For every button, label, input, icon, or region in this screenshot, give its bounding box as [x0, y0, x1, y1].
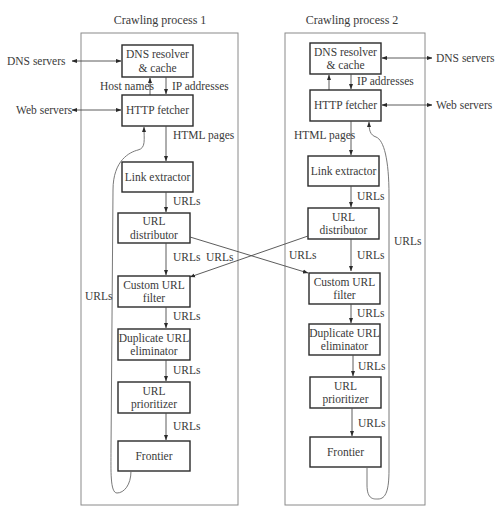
custom-url-filter-label-1a: Custom URL	[123, 279, 185, 291]
custom-url-filter-label-2b: filter	[333, 289, 356, 301]
urls-label-dedup-prior-2: URLs	[358, 360, 386, 372]
url-distributor-label-1a: URL	[143, 215, 166, 227]
ip-addresses-label-2: IP addresses	[357, 75, 414, 87]
custom-url-filter-label-2a: Custom URL	[314, 276, 376, 288]
link-extractor-label-1: Link extractor	[125, 171, 191, 183]
custom-url-filter-label-1b: filter	[143, 292, 166, 304]
duplicate-url-eliminator-label-2b: eliminator	[321, 340, 368, 352]
crawling-process-1: Crawling process 1 DNS servers Web serve…	[7, 13, 238, 505]
distributed-crawler-diagram: Crawling process 1 DNS servers Web serve…	[0, 0, 502, 524]
dns-resolver-label-1b: & cache	[139, 62, 177, 74]
urls-label-link-dist-1: URLs	[173, 195, 201, 207]
urls-label-prior-frontier-1: URLs	[173, 420, 201, 432]
url-prioritizer-label-1b: prioritizer	[131, 398, 177, 411]
urls-label-cross-in-1: URLs	[206, 251, 234, 263]
urls-label-link-dist-2: URLs	[357, 190, 385, 202]
web-servers-label-1: Web servers	[16, 104, 73, 116]
ip-addresses-label-1: IP addresses	[172, 80, 229, 92]
urls-label-cross-in-2: URLs	[289, 249, 317, 261]
http-fetcher-label-1: HTTP fetcher	[126, 104, 189, 116]
web-servers-label-2: Web servers	[436, 99, 493, 111]
duplicate-url-eliminator-label-2a: Duplicate URL	[309, 327, 380, 340]
urls-label-filter-dedup-2: URLs	[357, 307, 385, 319]
process-2-title: Crawling process 2	[306, 13, 399, 27]
dns-resolver-label-2b: & cache	[327, 59, 365, 71]
dns-servers-label-2: DNS servers	[436, 52, 495, 64]
url-prioritizer-label-2b: prioritizer	[323, 393, 369, 406]
urls-label-loop-2: URLs	[394, 235, 422, 247]
urls-label-dist-filter-2: URLs	[357, 249, 385, 261]
url-prioritizer-label-2a: URL	[334, 380, 357, 392]
http-fetcher-label-2: HTTP fetcher	[314, 99, 377, 111]
dns-resolver-label-1a: DNS resolver	[126, 48, 189, 60]
host-names-label-1: Host names	[100, 80, 155, 92]
process-1-title: Crawling process 1	[114, 13, 207, 27]
url-distributor-label-2a: URL	[332, 211, 355, 223]
url-prioritizer-label-1a: URL	[143, 385, 166, 397]
frontier-label-2: Frontier	[327, 446, 364, 458]
urls-label-dedup-prior-1: URLs	[173, 364, 201, 376]
html-pages-label-2: HTML pages	[294, 129, 356, 142]
urls-label-dist-filter-1: URLs	[173, 251, 201, 263]
crawling-process-2: Crawling process 2 DNS servers Web serve…	[285, 13, 495, 505]
duplicate-url-eliminator-label-1b: eliminator	[130, 345, 177, 357]
duplicate-url-eliminator-label-1a: Duplicate URL	[119, 332, 190, 345]
urls-label-prior-frontier-2: URLs	[358, 417, 386, 429]
html-pages-label-1: HTML pages	[173, 129, 235, 142]
urls-label-filter-dedup-1: URLs	[173, 310, 201, 322]
dns-servers-label-1: DNS servers	[7, 55, 66, 67]
dns-resolver-label-2a: DNS resolver	[314, 46, 377, 58]
url-distributor-label-1b: distributor	[130, 229, 178, 241]
url-distributor-label-2b: distributor	[320, 224, 368, 236]
frontier-label-1: Frontier	[135, 450, 172, 462]
urls-label-loop-1: URLs	[85, 290, 113, 302]
link-extractor-label-2: Link extractor	[311, 165, 377, 177]
